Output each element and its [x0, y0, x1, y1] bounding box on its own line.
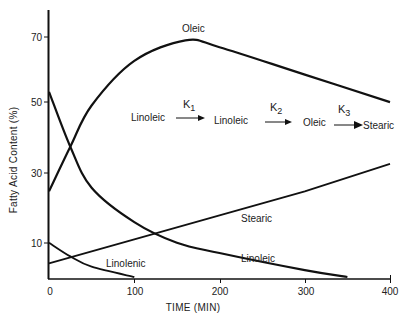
stearic-label: Stearic	[241, 213, 272, 224]
x-tick-label: 0	[47, 286, 53, 297]
rate-constant-k1: K1	[183, 98, 195, 113]
scheme-product: Stearic	[363, 120, 394, 131]
x-axis-title: TIME (MIN)	[166, 302, 221, 313]
y-tick-label: 10	[31, 238, 43, 249]
scheme-reactant-2: Linoleic	[214, 115, 248, 126]
arrowhead-icon	[285, 119, 292, 125]
y-tick-label: 30	[31, 168, 43, 179]
oleic-label: Oleic	[182, 23, 205, 34]
x-tick-label: 200	[212, 286, 229, 297]
arrowhead-icon	[354, 121, 363, 129]
rate-constant-k2: K2	[270, 101, 282, 116]
rate-constant-k3: K3	[338, 103, 350, 118]
x-tick-label: 400	[382, 286, 399, 297]
y-tick-label: 70	[31, 32, 43, 43]
scheme-reactant-3: Oleic	[303, 117, 326, 128]
reaction-scheme: Linoleic K1 Linoleic K2 Oleic K3 Stearic	[131, 98, 394, 131]
chart: 70 50 30 10 0 100 200 300 400 TIME (MIN)…	[0, 0, 409, 322]
arrowhead-icon	[198, 115, 205, 121]
linolenic-label: Linolenic	[106, 258, 145, 269]
x-tick-label: 300	[298, 286, 315, 297]
y-ticks: 70 50 30 10	[31, 32, 49, 249]
y-axis-title: Fatty Acid Content (%)	[8, 107, 19, 214]
stearic-curve	[49, 164, 390, 263]
scheme-reactant-1: Linoleic	[131, 112, 165, 123]
x-tick-label: 100	[127, 286, 144, 297]
y-tick-label: 50	[31, 97, 43, 108]
linoleic-label: Linoleic	[241, 253, 275, 264]
